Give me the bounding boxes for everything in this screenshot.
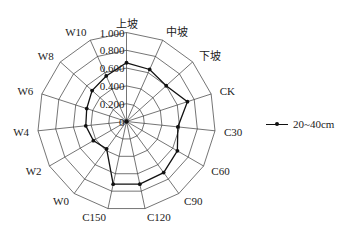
radial-tick-label: 0.400: [100, 80, 125, 92]
category-label: W6: [17, 85, 33, 97]
data-point-marker: [104, 74, 108, 78]
category-label: C150: [82, 211, 106, 223]
data-point-marker: [90, 89, 94, 93]
category-label: 上坡: [116, 18, 138, 30]
category-label: W8: [38, 50, 54, 62]
data-point-marker: [125, 61, 129, 65]
legend-line-marker-icon: [266, 116, 288, 132]
center-point: [124, 119, 128, 123]
data-point-marker: [91, 139, 95, 143]
radial-tick-label: 0: [119, 116, 125, 128]
category-label: C120: [147, 211, 171, 223]
radial-tick-labels: 00.2000.4000.6000.8001.000: [100, 27, 125, 128]
data-point-marker: [175, 149, 179, 153]
data-point-marker: [138, 182, 142, 186]
category-label: W10: [65, 26, 87, 38]
radar-chart: 00.2000.4000.6000.8001.000 上坡中坡下坡CKC30C6…: [0, 0, 346, 230]
radial-tick-label: 0.800: [100, 44, 125, 56]
category-label: C90: [184, 195, 203, 207]
data-point-marker: [164, 84, 168, 88]
data-point-marker: [148, 68, 152, 72]
category-label: W4: [13, 126, 29, 138]
category-label: C30: [224, 126, 243, 138]
data-point-marker: [84, 124, 88, 128]
data-point-marker: [105, 147, 109, 151]
category-label: C60: [211, 165, 230, 177]
category-label: CK: [220, 85, 235, 97]
data-point-marker: [162, 171, 166, 175]
data-point-marker: [85, 107, 89, 111]
category-label: 下坡: [199, 50, 221, 62]
radial-tick-label: 0.200: [100, 98, 125, 110]
data-point-marker: [186, 100, 190, 104]
radial-tick-label: 0.600: [100, 62, 125, 74]
category-label: W0: [53, 195, 69, 207]
axis-spoke: [127, 94, 212, 122]
legend: 20~40cm: [266, 116, 334, 132]
category-label: 中坡: [166, 26, 188, 38]
axis-spoke: [127, 40, 163, 121]
data-point-marker: [111, 182, 115, 186]
category-label: W2: [26, 165, 42, 177]
data-point-marker: [176, 125, 180, 129]
legend-label: 20~40cm: [293, 118, 334, 130]
